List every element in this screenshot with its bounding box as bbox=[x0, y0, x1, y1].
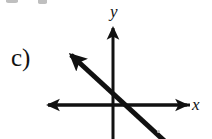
x-axis-label: x bbox=[192, 96, 200, 113]
plotted-line-negative-slope bbox=[71, 55, 170, 139]
y-axis-label: y bbox=[110, 3, 118, 20]
figure-screenshot: y x c) bbox=[0, 0, 212, 139]
part-label: c) bbox=[11, 45, 30, 70]
coordinate-axes-diagram bbox=[0, 0, 212, 139]
scan-speck-icon bbox=[157, 130, 160, 133]
